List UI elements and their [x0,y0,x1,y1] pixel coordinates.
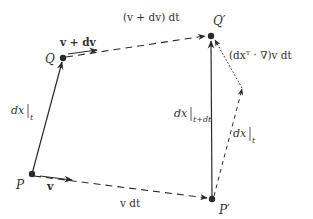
label-v: v [46,180,54,193]
edge-gradient-term [215,40,242,88]
point-P-prime [209,196,215,202]
edge-v-dt [34,176,207,198]
velocity-gradient-diagram: P Q P′ Q′ v v + dv v dt (v + dv) dt (dxᵀ… [0,0,313,219]
label-v-plus-dv: v + dv [59,36,97,48]
label-gradient-term: (dxᵀ · ∇)v dt [229,49,293,61]
svg-text:dx: dx [11,104,25,117]
edge-dx-t-translated [214,89,242,196]
svg-text:t: t [252,136,256,145]
svg-text:dx: dx [233,127,247,140]
edge-dx-t [32,62,62,174]
svg-text:t+dt: t+dt [193,115,212,124]
label-Q: Q [45,52,55,66]
svg-text:t: t [30,113,34,122]
point-Q-prime [208,33,214,39]
label-P-prime: P′ [218,203,230,217]
label-P: P [15,178,25,192]
svg-text:dx: dx [174,107,188,120]
label-dx-t: dx t [11,104,34,122]
label-v-dt: v dt [119,197,141,209]
velocity-arrow-v [40,176,72,180]
point-P [29,171,35,177]
point-Q [60,55,66,61]
label-dx-t-plus-dt: dx t+dt [174,107,212,124]
label-v-plus-dv-dt: (v + dv) dt [123,11,180,23]
label-dx-t-translated: dx t [233,127,256,145]
label-Q-prime: Q′ [213,14,226,28]
